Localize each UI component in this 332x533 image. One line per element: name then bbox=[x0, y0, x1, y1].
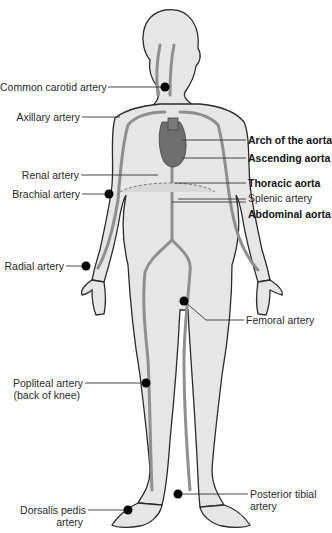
label-posterior-tibial-sub: artery bbox=[250, 500, 277, 512]
heart bbox=[159, 118, 186, 167]
label-popliteal-sub: (back of knee) bbox=[0, 389, 80, 401]
label-arch-of-aorta: Arch of the aorta bbox=[248, 134, 332, 146]
label-dorsalis-pedis-sub: artery bbox=[0, 516, 83, 528]
label-radial-artery: Radial artery bbox=[0, 260, 64, 272]
label-common-carotid-artery: Common carotid artery bbox=[0, 81, 106, 93]
label-thoracic-aorta: Thoracic aorta bbox=[248, 177, 320, 189]
label-splenic-artery: Splenic artery bbox=[248, 192, 312, 204]
label-brachial-artery: Brachial artery bbox=[0, 188, 80, 200]
label-axillary-artery: Axillary artery bbox=[0, 111, 80, 123]
label-dorsalis-pedis: Dorsalis pedis bbox=[0, 504, 86, 516]
label-posterior-tibial: Posterior tibial bbox=[250, 488, 317, 500]
label-popliteal-artery: Popliteal artery bbox=[0, 377, 83, 389]
label-renal-artery: Renal artery bbox=[0, 169, 79, 181]
artery-diagram: Common carotid artery Axillary artery Re… bbox=[0, 0, 332, 533]
label-ascending-aorta: Ascending aorta bbox=[248, 152, 330, 164]
label-femoral-artery: Femoral artery bbox=[246, 314, 314, 326]
label-abdominal-aorta: Abdominal aorta bbox=[248, 208, 331, 220]
